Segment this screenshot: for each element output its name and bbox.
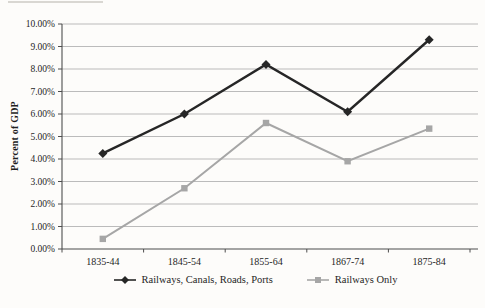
square-line-marker-icon: [307, 275, 329, 285]
y-tick-label: 3.00%: [30, 177, 55, 187]
y-tick-label: 5.00%: [30, 132, 55, 142]
series-line-1: [103, 123, 429, 239]
legend-label-railways-canals-roads-ports: Railways, Canals, Roads, Ports: [142, 274, 273, 285]
data-point-square: [344, 158, 350, 164]
x-tick-label: 1867-74: [331, 256, 364, 267]
data-point-square: [100, 236, 106, 242]
y-tick-label: 4.00%: [30, 154, 55, 164]
data-point-square: [263, 120, 269, 126]
legend: Railways, Canals, Roads, Ports Railways …: [0, 274, 485, 285]
y-tick-label: 0.00%: [30, 244, 55, 254]
y-tick-label: 1.00%: [30, 222, 55, 232]
y-tick-label: 9.00%: [30, 42, 55, 52]
data-point-square: [181, 185, 187, 191]
legend-item-railways-canals-roads-ports: Railways, Canals, Roads, Ports: [114, 274, 273, 285]
y-tick-label: 6.00%: [30, 109, 55, 119]
y-tick-label: 2.00%: [30, 199, 55, 209]
chart-canvas: Percent of GDP 0.00%1.00%2.00%3.00%4.00%…: [0, 0, 485, 308]
data-point-diamond: [98, 149, 107, 158]
plot-area: 0.00%1.00%2.00%3.00%4.00%5.00%6.00%7.00%…: [0, 0, 485, 274]
x-tick-label: 1855-64: [249, 256, 282, 267]
legend-label-railways-only: Railways Only: [335, 274, 398, 285]
legend-item-railways-only: Railways Only: [307, 274, 398, 285]
x-tick-label: 1845-54: [168, 256, 201, 267]
y-tick-label: 10.00%: [26, 19, 55, 29]
x-tick-label: 1875-84: [413, 256, 446, 267]
y-tick-label: 8.00%: [30, 64, 55, 74]
x-tick-label: 1835-44: [86, 256, 119, 267]
data-point-square: [426, 125, 432, 131]
y-tick-label: 7.00%: [30, 87, 55, 97]
diamond-line-marker-icon: [114, 275, 136, 285]
